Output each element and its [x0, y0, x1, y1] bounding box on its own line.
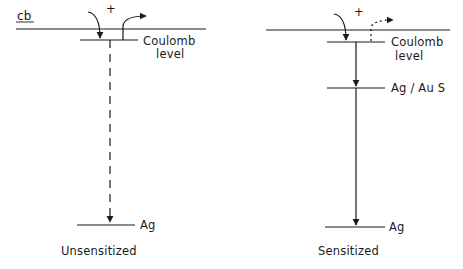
left-coulomb-label-line2: level	[156, 48, 184, 60]
right-coulomb-label-line2: level	[395, 50, 423, 62]
right-ag-label: Ag	[389, 221, 405, 233]
right-caption: Sensitized	[318, 245, 379, 257]
left-capture-arrow	[88, 12, 100, 38]
left-caption: Unsensitized	[61, 245, 137, 257]
left-coulomb-label-line1: Coulomb	[143, 35, 196, 47]
right-sensitizer-label: Ag / Au S	[391, 82, 445, 94]
cb-label: cb	[17, 10, 32, 22]
left-charge-symbol: +	[106, 3, 116, 15]
right-coulomb-label-line1: Coulomb	[391, 36, 444, 48]
right-charge-symbol: +	[354, 6, 364, 18]
left-ag-label: Ag	[140, 219, 156, 231]
right-capture-arrow	[334, 14, 346, 40]
